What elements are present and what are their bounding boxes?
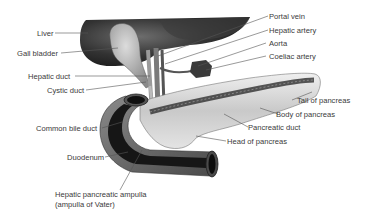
label-coeliac-artery: Coeliac artery (269, 52, 316, 61)
label-head-of-pancreas: Head of pancreas (227, 137, 287, 146)
label-body-of-pancreas: Body of pancreas (276, 110, 335, 119)
label-duodenum: Duodenum (67, 153, 104, 162)
anatomy-diagram: Liver Gall bladder Hepatic duct Cystic d… (0, 0, 372, 217)
label-gall-bladder: Gall bladder (17, 49, 58, 58)
liver-shape (80, 17, 250, 66)
label-liver: Liver (37, 29, 53, 38)
label-aorta: Aorta (269, 39, 287, 48)
label-ampulla-line1: Hepatic pancreatic ampulla (55, 190, 147, 199)
label-tail-of-pancreas: Tail of pancreas (297, 96, 350, 105)
label-common-bile-duct: Common bile duct (36, 124, 97, 133)
label-ampulla-line2: (ampulla of Vater) (55, 200, 115, 209)
label-cystic-duct: Cystic duct (47, 86, 84, 95)
label-hepatic-duct: Hepatic duct (28, 72, 70, 81)
label-hepatic-artery: Hepatic artery (269, 26, 316, 35)
label-pancreatic-duct: Pancreatic duct (248, 123, 300, 132)
label-portal-vein: Portal vein (269, 12, 305, 21)
coeliac-trunk-shape (190, 60, 212, 78)
